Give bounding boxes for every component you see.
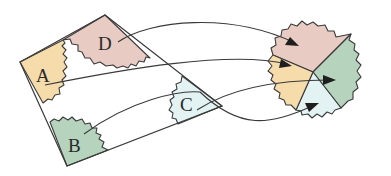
- label-d: D: [98, 33, 112, 54]
- label-b: B: [68, 135, 81, 156]
- quadrilateral: [20, 15, 222, 166]
- label-c: C: [180, 94, 193, 115]
- arrow-d: [118, 23, 295, 43]
- angle-sum-diagram: D A C B: [0, 0, 391, 176]
- label-a: A: [36, 65, 50, 86]
